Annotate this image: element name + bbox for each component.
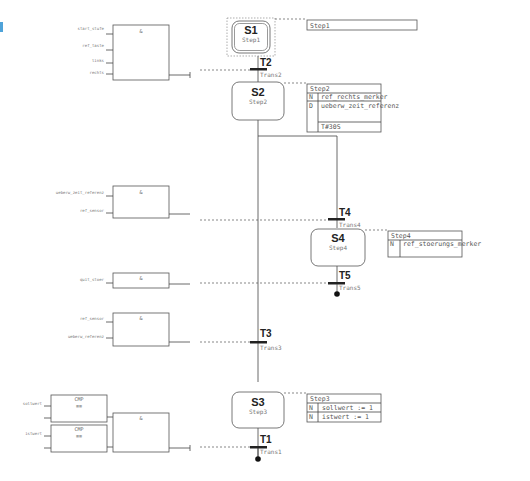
action-name: ref_rechts_merker — [321, 93, 388, 101]
step-id: S1 — [244, 24, 257, 36]
transition-name: Trans4 — [339, 221, 361, 228]
step-id: S3 — [251, 396, 264, 408]
fbd-t1[interactable]: CMP == sollwert CMP == istwert & — [23, 395, 190, 452]
step-name: Step3 — [249, 408, 267, 416]
step-s4[interactable]: S4 Step4 — [311, 229, 365, 266]
step-id: S4 — [331, 232, 345, 244]
input-label: ref_sensor — [80, 208, 105, 213]
and-label: & — [139, 28, 142, 34]
fbd-t2[interactable]: & start_stufe ref_taste links rechts — [78, 25, 191, 80]
transition-id: T2 — [260, 57, 272, 68]
transition-t3[interactable]: T3 Trans3 — [250, 328, 282, 351]
input-label: quit_stoer — [80, 277, 105, 282]
input-label: start_stufe — [78, 26, 105, 31]
input-label: rechts — [90, 70, 105, 75]
cmp-symbol: == — [76, 433, 82, 439]
cmp-label: CMP — [74, 396, 83, 402]
transition-id: T5 — [339, 270, 351, 281]
step-s1[interactable]: S1 Step1 — [227, 18, 275, 56]
action-block-s3[interactable]: Step3 N sollwert := 1 N istwert := 1 — [307, 394, 381, 422]
transition-name: Trans1 — [260, 448, 282, 455]
step-s2[interactable]: S2 Step2 — [232, 82, 284, 120]
action-qualifier: N — [309, 93, 313, 101]
input-label: istwert — [25, 431, 42, 436]
transition-id: T3 — [260, 328, 272, 339]
cmp-symbol: == — [76, 403, 82, 409]
cmp-block-2[interactable]: CMP == istwert — [25, 425, 113, 452]
action-name: istwert := 1 — [322, 413, 369, 421]
and-label: & — [139, 415, 142, 421]
fbd-t4[interactable]: & ueberw_zeit_referenz ref_sensor — [56, 186, 190, 218]
input-label: links — [92, 58, 105, 63]
action-header: Step3 — [310, 395, 330, 403]
action-qualifier: D — [309, 102, 313, 110]
step-id: S2 — [251, 86, 264, 98]
action-header: Step2 — [310, 85, 330, 93]
input-label: ref_taste — [82, 43, 104, 48]
action-header: Step4 — [391, 232, 411, 240]
action-block-s4[interactable]: Step4 N ref_stoerungs_merker — [388, 231, 481, 257]
action-qualifier: N — [390, 240, 394, 248]
action-header: Step1 — [310, 22, 330, 30]
fbd-t3[interactable]: & ref_sensor ueberw_referenz — [68, 313, 190, 346]
step-s3[interactable]: S3 Step3 — [232, 392, 284, 428]
transition-t5[interactable]: T5 Trans5 — [328, 270, 361, 291]
action-block-s2[interactable]: Step2 N ref_rechts_merker D ueberw_zeit_… — [307, 84, 399, 132]
and-label: & — [139, 189, 142, 195]
selection-marker — [0, 22, 3, 32]
action-block-s1[interactable]: Step1 — [307, 20, 417, 30]
transition-id: T1 — [260, 434, 272, 445]
action-qualifier: N — [309, 413, 313, 421]
sfc-diagram: S1 Step1 Step1 T2 Trans2 & start_stufe r… — [0, 0, 530, 481]
step-name: Step4 — [329, 244, 347, 252]
transition-t1[interactable]: T1 Trans1 — [250, 434, 282, 455]
action-name: sollwert := 1 — [322, 404, 373, 412]
jump-end-icon — [334, 291, 340, 297]
step-name: Step1 — [242, 36, 260, 44]
transition-name: Trans5 — [339, 284, 361, 291]
transition-name: Trans2 — [260, 71, 282, 78]
cmp-label: CMP — [74, 426, 83, 432]
transition-id: T4 — [339, 207, 351, 218]
action-qualifier: N — [309, 404, 313, 412]
input-label: sollwert — [23, 401, 43, 406]
input-label: ueberw_zeit_referenz — [56, 190, 105, 195]
input-label: ref_sensor — [80, 316, 105, 321]
and-label: & — [139, 315, 142, 321]
transition-name: Trans3 — [260, 344, 282, 351]
cmp-block-1[interactable]: CMP == sollwert — [23, 395, 113, 422]
jump-end-icon — [255, 456, 261, 462]
input-label: ueberw_referenz — [68, 334, 105, 339]
action-name: ref_stoerungs_merker — [403, 240, 481, 248]
action-time: T#30S — [321, 123, 341, 131]
transition-t2[interactable]: T2 Trans2 — [250, 57, 282, 78]
and-label: & — [139, 275, 142, 281]
step-name: Step2 — [249, 98, 267, 106]
transition-t4[interactable]: T4 Trans4 — [328, 207, 361, 228]
fbd-t5[interactable]: & quit_stoer — [80, 273, 190, 288]
action-name: ueberw_zeit_referenz — [321, 102, 399, 110]
